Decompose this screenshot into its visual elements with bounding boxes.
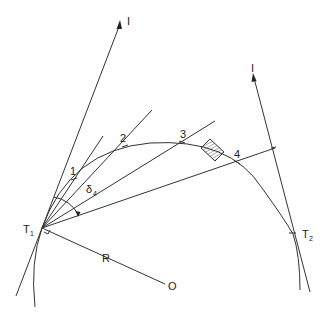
label-angle-delta-sub: 4	[93, 190, 97, 197]
curve-setting-out-diagram: I I 1 2 3 4 δ 4 T 1 T 2 R O	[0, 0, 329, 325]
ray-to-point-1	[42, 136, 103, 228]
ray-to-point-4	[42, 148, 275, 228]
label-point-4: 4	[234, 148, 240, 160]
label-radius: R	[102, 252, 110, 264]
label-t2: T	[302, 228, 309, 240]
label-point-2: 2	[120, 132, 126, 144]
ray-to-point-2	[42, 110, 152, 228]
label-point-3: 3	[180, 128, 186, 140]
obstruction-hatched	[201, 139, 224, 161]
ray-to-point-3	[42, 121, 215, 228]
label-point-1: 1	[70, 165, 76, 177]
label-intersection-right: I	[251, 62, 254, 74]
label-intersection-left: I	[127, 15, 130, 27]
tangent-line-right	[254, 78, 310, 292]
label-t1-sub: 1	[30, 230, 34, 237]
label-t2-sub: 2	[309, 235, 313, 242]
label-t1: T	[23, 223, 30, 235]
arrow-head-left-icon	[117, 20, 123, 29]
arrow-head-right-icon	[252, 73, 257, 82]
label-angle-delta: δ	[86, 183, 92, 195]
label-centre: O	[168, 280, 177, 292]
